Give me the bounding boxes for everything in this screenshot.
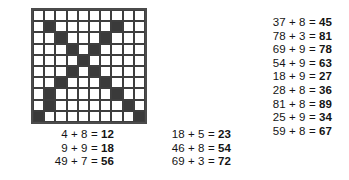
grid-cell[interactable] (55, 21, 66, 32)
grid-cell[interactable] (111, 10, 122, 21)
grid-cell[interactable] (67, 77, 78, 88)
grid-cell[interactable] (89, 21, 100, 32)
grid-cell[interactable] (44, 77, 55, 88)
grid-cell[interactable] (100, 44, 111, 55)
grid-cell[interactable] (44, 88, 55, 99)
grid-cell[interactable] (123, 44, 134, 55)
grid-cell[interactable] (44, 55, 55, 66)
grid-cell[interactable] (100, 66, 111, 77)
grid-cell[interactable] (67, 44, 78, 55)
grid-cell[interactable] (111, 32, 122, 43)
grid-cell[interactable] (134, 100, 145, 111)
grid-cell[interactable] (89, 66, 100, 77)
grid-cell[interactable] (33, 111, 44, 122)
grid-cell[interactable] (100, 111, 111, 122)
grid-cell[interactable] (55, 77, 66, 88)
grid-cell[interactable] (67, 10, 78, 21)
grid-cell[interactable] (89, 10, 100, 21)
grid-cell[interactable] (67, 66, 78, 77)
grid-cell[interactable] (123, 10, 134, 21)
grid-cell[interactable] (78, 100, 89, 111)
grid-cell[interactable] (111, 88, 122, 99)
grid-cell[interactable] (123, 100, 134, 111)
grid-cell[interactable] (55, 55, 66, 66)
grid-cell[interactable] (123, 66, 134, 77)
grid-cell[interactable] (44, 32, 55, 43)
grid-cell[interactable] (67, 88, 78, 99)
grid-cell[interactable] (134, 66, 145, 77)
grid-cell[interactable] (111, 21, 122, 32)
grid-cell[interactable] (78, 66, 89, 77)
grid-cell[interactable] (67, 100, 78, 111)
grid-cell[interactable] (78, 55, 89, 66)
grid-cell[interactable] (89, 111, 100, 122)
grid-cell[interactable] (111, 55, 122, 66)
grid-cell[interactable] (134, 44, 145, 55)
grid-cell[interactable] (89, 100, 100, 111)
grid-cell[interactable] (100, 21, 111, 32)
grid-cell[interactable] (33, 32, 44, 43)
grid-cell[interactable] (111, 77, 122, 88)
grid-cell[interactable] (123, 77, 134, 88)
grid-cell[interactable] (134, 77, 145, 88)
grid-cell[interactable] (33, 88, 44, 99)
grid-cell[interactable] (55, 32, 66, 43)
grid-cell[interactable] (100, 10, 111, 21)
grid-cell[interactable] (78, 10, 89, 21)
grid-cell[interactable] (44, 66, 55, 77)
grid-cell[interactable] (67, 21, 78, 32)
grid-cell[interactable] (67, 32, 78, 43)
grid-cell[interactable] (33, 66, 44, 77)
grid-cell[interactable] (100, 32, 111, 43)
grid-cell[interactable] (55, 88, 66, 99)
grid-cell[interactable] (33, 77, 44, 88)
grid-cell[interactable] (111, 66, 122, 77)
grid-cell[interactable] (89, 44, 100, 55)
grid-cell[interactable] (100, 88, 111, 99)
grid-cell[interactable] (123, 21, 134, 32)
grid-cell[interactable] (33, 21, 44, 32)
grid-cell[interactable] (33, 10, 44, 21)
grid-cell[interactable] (44, 111, 55, 122)
grid-cell[interactable] (134, 10, 145, 21)
grid-cell[interactable] (134, 32, 145, 43)
grid-cell[interactable] (100, 77, 111, 88)
grid-cell[interactable] (44, 21, 55, 32)
grid-cell[interactable] (78, 77, 89, 88)
grid-cell[interactable] (55, 44, 66, 55)
grid-cell[interactable] (134, 111, 145, 122)
grid-cell[interactable] (78, 111, 89, 122)
grid-cell[interactable] (55, 66, 66, 77)
grid-cell[interactable] (123, 88, 134, 99)
grid-cell[interactable] (134, 21, 145, 32)
grid-cell[interactable] (78, 21, 89, 32)
grid-cell[interactable] (78, 44, 89, 55)
grid-cell[interactable] (111, 100, 122, 111)
grid-cell[interactable] (78, 32, 89, 43)
grid-cell[interactable] (123, 55, 134, 66)
grid-cell[interactable] (33, 55, 44, 66)
grid-cell[interactable] (33, 44, 44, 55)
grid-cell[interactable] (89, 55, 100, 66)
grid-cell[interactable] (111, 111, 122, 122)
grid-cell[interactable] (123, 32, 134, 43)
grid-cell[interactable] (89, 77, 100, 88)
grid-cell[interactable] (134, 88, 145, 99)
grid-cell[interactable] (111, 44, 122, 55)
grid-cell[interactable] (44, 10, 55, 21)
grid-cell[interactable] (78, 88, 89, 99)
grid-cell[interactable] (55, 111, 66, 122)
grid-cell[interactable] (123, 111, 134, 122)
grid-cell[interactable] (89, 88, 100, 99)
grid-cell[interactable] (89, 32, 100, 43)
grid-cell[interactable] (134, 55, 145, 66)
grid-cell[interactable] (55, 100, 66, 111)
grid-cell[interactable] (67, 55, 78, 66)
grid-cell[interactable] (44, 44, 55, 55)
grid-cell[interactable] (67, 111, 78, 122)
grid-cell[interactable] (33, 100, 44, 111)
grid-cell[interactable] (44, 100, 55, 111)
grid-cell[interactable] (100, 55, 111, 66)
grid-cell[interactable] (100, 100, 111, 111)
grid-cell[interactable] (55, 10, 66, 21)
